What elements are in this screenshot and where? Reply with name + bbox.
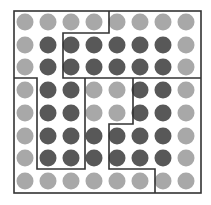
light-dot <box>86 82 103 99</box>
dark-dot <box>63 82 80 99</box>
dark-dot <box>109 150 126 167</box>
dark-dot <box>132 37 149 54</box>
light-dot <box>109 173 126 190</box>
dot-grid <box>17 14 195 190</box>
dark-dot <box>40 150 57 167</box>
dark-dot <box>109 59 126 76</box>
diagram-canvas <box>0 0 211 205</box>
light-dot <box>178 59 195 76</box>
dark-dot <box>40 105 57 122</box>
light-dot <box>86 173 103 190</box>
dark-dot <box>109 37 126 54</box>
light-dot <box>86 14 103 31</box>
light-dot <box>155 14 172 31</box>
dark-dot <box>132 59 149 76</box>
dark-dot <box>132 82 149 99</box>
dark-dot <box>63 150 80 167</box>
dark-dot <box>132 128 149 145</box>
light-dot <box>17 59 34 76</box>
outer-border <box>14 11 201 193</box>
light-dot <box>178 150 195 167</box>
dark-dot <box>40 37 57 54</box>
light-dot <box>178 173 195 190</box>
dark-dot <box>63 128 80 145</box>
dark-dot <box>155 128 172 145</box>
partition-lines <box>14 11 201 193</box>
dark-dot <box>132 150 149 167</box>
light-dot <box>155 173 172 190</box>
light-dot <box>17 150 34 167</box>
light-dot <box>132 173 149 190</box>
light-dot <box>109 14 126 31</box>
light-dot <box>178 105 195 122</box>
light-dot <box>17 14 34 31</box>
light-dot <box>17 37 34 54</box>
light-dot <box>17 173 34 190</box>
dark-dot <box>40 82 57 99</box>
light-dot <box>17 128 34 145</box>
dark-dot <box>155 82 172 99</box>
light-dot <box>178 37 195 54</box>
dark-dot <box>132 105 149 122</box>
dark-dot <box>40 59 57 76</box>
dark-dot <box>155 37 172 54</box>
dark-dot <box>155 105 172 122</box>
light-dot <box>40 173 57 190</box>
dark-dot <box>63 59 80 76</box>
dark-dot <box>155 150 172 167</box>
dark-dot <box>109 128 126 145</box>
dark-dot <box>63 37 80 54</box>
dark-dot <box>86 59 103 76</box>
light-dot <box>17 105 34 122</box>
dark-dot <box>86 37 103 54</box>
light-dot <box>109 82 126 99</box>
light-dot <box>63 173 80 190</box>
light-dot <box>132 14 149 31</box>
light-dot <box>86 105 103 122</box>
light-dot <box>178 82 195 99</box>
dark-dot <box>155 59 172 76</box>
light-dot <box>63 14 80 31</box>
light-dot <box>178 14 195 31</box>
light-dot <box>17 82 34 99</box>
light-dot <box>109 105 126 122</box>
light-dot <box>40 14 57 31</box>
dark-dot <box>86 150 103 167</box>
light-dot <box>178 128 195 145</box>
dark-dot <box>40 128 57 145</box>
dot-grid-diagram <box>0 0 211 205</box>
dark-dot <box>63 105 80 122</box>
dark-dot <box>86 128 103 145</box>
